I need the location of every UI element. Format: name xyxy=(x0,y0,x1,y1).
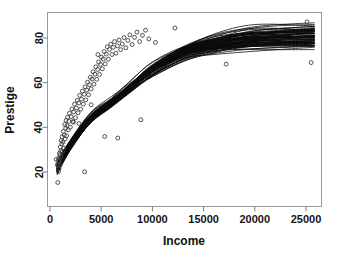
chart-figure: 0500010000150002000025000 20406080 Incom… xyxy=(0,0,341,258)
x-tick-label: 10000 xyxy=(137,213,168,225)
x-tick-label: 15000 xyxy=(188,213,219,225)
x-tick-label: 25000 xyxy=(291,213,322,225)
y-tick-label: 60 xyxy=(33,77,45,89)
x-axis-title: Income xyxy=(163,234,205,248)
x-tick-label: 5000 xyxy=(89,213,113,225)
y-tick-label: 80 xyxy=(33,32,45,44)
y-tick-label: 20 xyxy=(33,166,45,178)
x-tick-label: 20000 xyxy=(240,213,271,225)
y-tick-label: 40 xyxy=(33,121,45,133)
scatterplot-prestige-vs-income: 0500010000150002000025000 20406080 Incom… xyxy=(0,0,341,258)
x-tick-label: 0 xyxy=(47,213,53,225)
y-axis-title: Prestige xyxy=(3,86,17,134)
